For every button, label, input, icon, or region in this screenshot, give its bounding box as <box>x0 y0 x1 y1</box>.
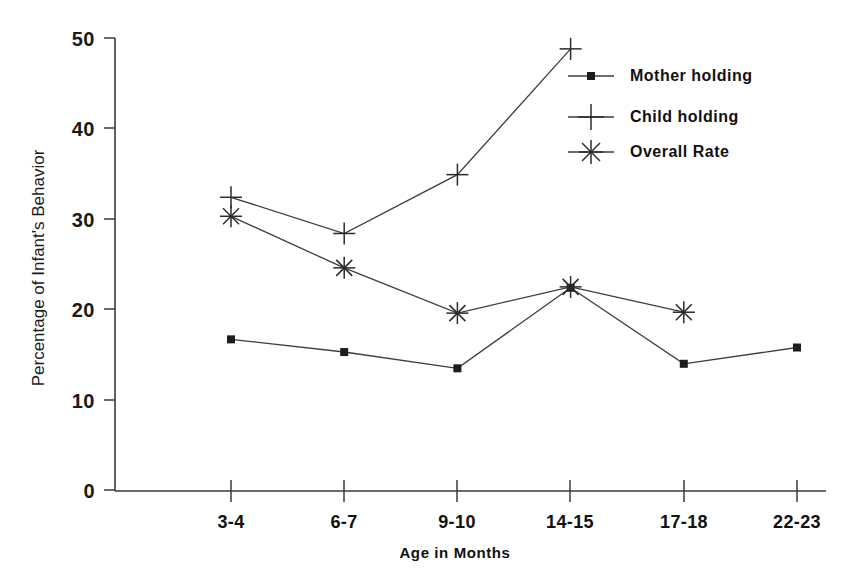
plus-data-point <box>333 222 355 244</box>
x-tick-label-4: 17-18 <box>660 512 708 532</box>
asterisk-data-point <box>220 205 242 227</box>
plus-marker-icon <box>578 104 604 130</box>
legend-label-2: Overall Rate <box>630 143 729 160</box>
y-axis-title: Percentage of Infant's Behavior <box>29 149 48 386</box>
series-layer <box>220 38 801 372</box>
series-polyline <box>231 216 684 313</box>
square-data-point <box>793 344 801 352</box>
series-child-holding <box>220 38 582 245</box>
asterisk-data-point <box>560 276 582 298</box>
legend: Mother holding Child holding Overall <box>568 67 753 164</box>
series-mother-holding <box>227 284 801 373</box>
x-tick-label-2: 9-10 <box>438 512 476 532</box>
legend-item-overall-rate[interactable]: Overall Rate <box>568 140 729 164</box>
y-tick-label-10: 10 <box>72 390 95 412</box>
x-axis-title: Age in Months <box>399 544 510 561</box>
asterisk-data-point <box>446 302 468 324</box>
y-tick-label-40: 40 <box>72 118 95 140</box>
asterisk-data-point <box>333 257 355 279</box>
x-tick-labels: 3-4 6-7 9-10 14-15 17-18 22-23 <box>217 512 821 532</box>
x-tick-label-0: 3-4 <box>217 512 244 532</box>
legend-label-1: Child holding <box>630 108 739 125</box>
square-data-point <box>227 335 235 343</box>
asterisk-marker-icon <box>579 140 603 164</box>
series-overall-rate <box>220 205 695 324</box>
asterisk-data-point <box>673 301 695 323</box>
y-tick-labels: 50 40 30 20 10 0 <box>72 28 95 502</box>
x-tick-label-5: 22-23 <box>773 512 821 532</box>
plus-data-point <box>220 186 242 208</box>
series-polyline <box>231 49 571 234</box>
line-chart: 50 40 30 20 10 0 3-4 6-7 9-10 14-15 17-1… <box>0 0 854 581</box>
y-tick-label-30: 30 <box>72 209 95 231</box>
y-tick-label-0: 0 <box>83 480 95 502</box>
legend-label-0: Mother holding <box>630 67 753 84</box>
legend-item-child-holding[interactable]: Child holding <box>568 104 739 130</box>
chart-container: 50 40 30 20 10 0 3-4 6-7 9-10 14-15 17-1… <box>0 0 854 581</box>
y-tick-label-20: 20 <box>72 299 95 321</box>
legend-item-mother-holding[interactable]: Mother holding <box>568 67 753 84</box>
square-data-point <box>340 348 348 356</box>
x-tick-label-3: 14-15 <box>546 512 594 532</box>
square-marker-icon <box>587 72 595 80</box>
x-tick-label-1: 6-7 <box>330 512 357 532</box>
square-data-point <box>680 360 688 368</box>
y-tick-label-50: 50 <box>72 28 95 50</box>
square-data-point <box>453 364 461 372</box>
